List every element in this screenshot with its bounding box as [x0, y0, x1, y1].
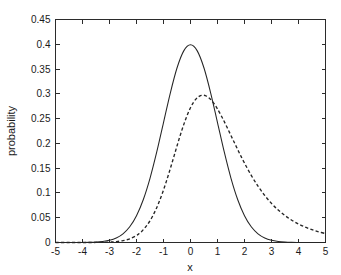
- x-tick-label: 5: [323, 246, 329, 257]
- y-tick-label: 0.1: [37, 187, 51, 198]
- y-tick-label: 0.25: [31, 113, 51, 124]
- y-tick-label: 0.3: [37, 88, 51, 99]
- probability-density-chart: -5-4-3-2-101234500.050.10.150.20.250.30.…: [0, 0, 341, 275]
- x-tick-label: 4: [296, 246, 302, 257]
- y-tick-label: 0.05: [31, 212, 51, 223]
- x-tick-label: 0: [188, 246, 194, 257]
- x-tick-label: -1: [159, 246, 168, 257]
- y-tick-label: 0.15: [31, 163, 51, 174]
- plot-background: [0, 0, 341, 275]
- x-tick-label: -2: [132, 246, 141, 257]
- x-tick-label: -3: [105, 246, 114, 257]
- x-tick-label: -5: [51, 246, 60, 257]
- figure-container: -5-4-3-2-101234500.050.10.150.20.250.30.…: [0, 0, 341, 275]
- y-tick-label: 0.35: [31, 64, 51, 75]
- x-tick-label: 1: [215, 246, 221, 257]
- y-tick-label: 0.2: [37, 138, 51, 149]
- x-tick-label: -4: [78, 246, 87, 257]
- y-tick-label: 0: [45, 237, 51, 248]
- y-tick-label: 0.4: [37, 39, 51, 50]
- x-tick-label: 2: [242, 246, 248, 257]
- y-axis-title: probability: [5, 105, 17, 156]
- y-tick-label: 0.45: [31, 14, 51, 25]
- x-axis-title: x: [187, 261, 193, 273]
- x-tick-label: 3: [269, 246, 275, 257]
